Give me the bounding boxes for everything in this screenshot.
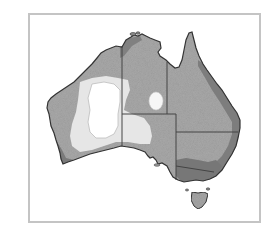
shade-white-nt-patch bbox=[149, 92, 163, 110]
shade-white-desert-core bbox=[88, 82, 120, 138]
tasmania bbox=[191, 192, 208, 209]
tiwi-islands bbox=[130, 32, 140, 36]
kangaroo-island bbox=[154, 164, 160, 167]
tasmania-northeast-islands bbox=[206, 188, 210, 190]
australia-map bbox=[0, 0, 273, 228]
king-island bbox=[185, 189, 188, 191]
